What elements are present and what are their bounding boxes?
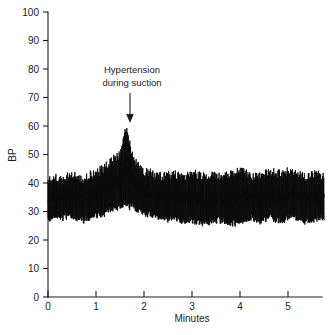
x-axis-title: Minutes: [174, 313, 209, 324]
y-tick-label: 10: [28, 263, 40, 274]
y-tick-label: 50: [28, 149, 40, 160]
y-tick-label: 40: [28, 178, 40, 189]
y-tick-label: 30: [28, 206, 40, 217]
y-tick-label: 20: [28, 235, 40, 246]
y-tick-label: 90: [28, 35, 40, 46]
x-tick-label: 5: [285, 301, 291, 312]
x-tick-label: 0: [45, 301, 51, 312]
y-tick-label: 60: [28, 121, 40, 132]
x-tick-label: 4: [237, 301, 243, 312]
annotation-line-1: Hypertension: [104, 64, 160, 75]
y-tick-label: 0: [33, 292, 39, 303]
y-tick-label: 100: [22, 7, 39, 18]
y-axis-title: BP: [7, 148, 18, 162]
y-tick-label: 80: [28, 64, 40, 75]
annotation-line-2: during suction: [102, 77, 161, 88]
chart-canvas: 0102030405060708090100 012345 Hypertensi…: [0, 0, 333, 335]
plot-background: [0, 0, 333, 335]
y-tick-label: 70: [28, 92, 40, 103]
x-tick-label: 3: [189, 301, 195, 312]
bp-trace-figure: 0102030405060708090100 012345 Hypertensi…: [0, 0, 333, 335]
x-tick-label: 2: [141, 301, 147, 312]
x-tick-label: 1: [93, 301, 99, 312]
